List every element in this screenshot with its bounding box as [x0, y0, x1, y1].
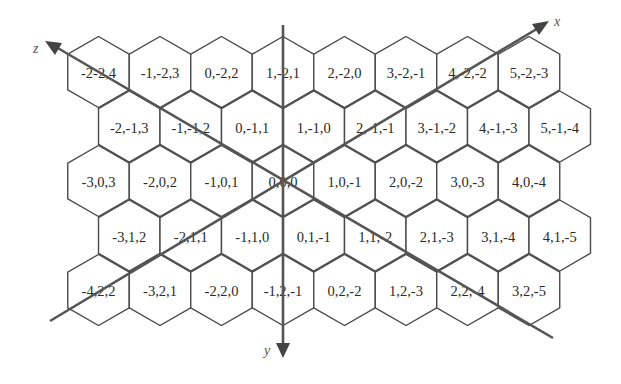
x-axis-arrow-icon [532, 21, 549, 35]
hex-coordinate-label: 4,1,-5 [543, 229, 577, 245]
hex-coordinate-label: -1,0,1 [205, 174, 239, 190]
hex-coordinate-label: 3,0,-3 [451, 174, 485, 190]
hex-coordinate-label: 3,2,-5 [512, 283, 546, 299]
hex-coordinate-label: -2,2,0 [205, 283, 239, 299]
hex-coordinate-label: 1,-1,0 [297, 120, 331, 136]
z-axis-label: z [32, 41, 39, 56]
hex-coordinate-label: -3,2,1 [143, 283, 177, 299]
hex-coordinate-diagram: -2-2,4-1,-2,30,-2,21,-2,12,-2,03,-2,-14,… [0, 0, 621, 384]
hex-coordinate-label: 2,1,-3 [420, 229, 454, 245]
hex-coordinate-label: 5,-1,-4 [540, 120, 579, 136]
hex-coordinate-label: 0,1,-1 [297, 229, 331, 245]
x-axis-label: x [553, 14, 561, 29]
hex-coordinate-label: 0,-2,2 [205, 65, 239, 81]
hex-coordinate-label: 0,2,-2 [328, 283, 362, 299]
hex-coordinate-label: 1,0,-1 [328, 174, 362, 190]
hex-coordinate-label: 5,-2,-3 [510, 65, 549, 81]
hex-coordinate-label: -1,-2,3 [141, 65, 180, 81]
y-axis-arrow-icon [276, 343, 290, 358]
hex-coordinate-label: 3,-1,-2 [417, 120, 456, 136]
hex-coordinate-label: 3,-2,-1 [387, 65, 426, 81]
hex-coordinate-label: 0,-1,1 [235, 120, 269, 136]
hex-coordinate-label: -3,0,3 [82, 174, 116, 190]
hex-grid: -2-2,4-1,-2,30,-2,21,-2,12,-2,03,-2,-14,… [68, 37, 591, 326]
hex-coordinate-label: 2,-2,0 [328, 65, 362, 81]
hex-coordinate-label: -3,1,2 [112, 229, 146, 245]
hex-coordinate-label: -1,1,0 [235, 229, 269, 245]
hex-coordinate-label: 4,-1,-3 [479, 120, 518, 136]
hex-coordinate-label: 3,1,-4 [481, 229, 516, 245]
hex-coordinate-label: 4,0,-4 [512, 174, 547, 190]
y-axis-label: y [262, 343, 271, 358]
hex-coordinate-label: 2,0,-2 [389, 174, 423, 190]
hex-coordinate-label: -2,0,2 [143, 174, 177, 190]
hex-coordinate-label: 1,2,-3 [389, 283, 423, 299]
hex-coordinate-label: -2,-1,3 [110, 120, 149, 136]
